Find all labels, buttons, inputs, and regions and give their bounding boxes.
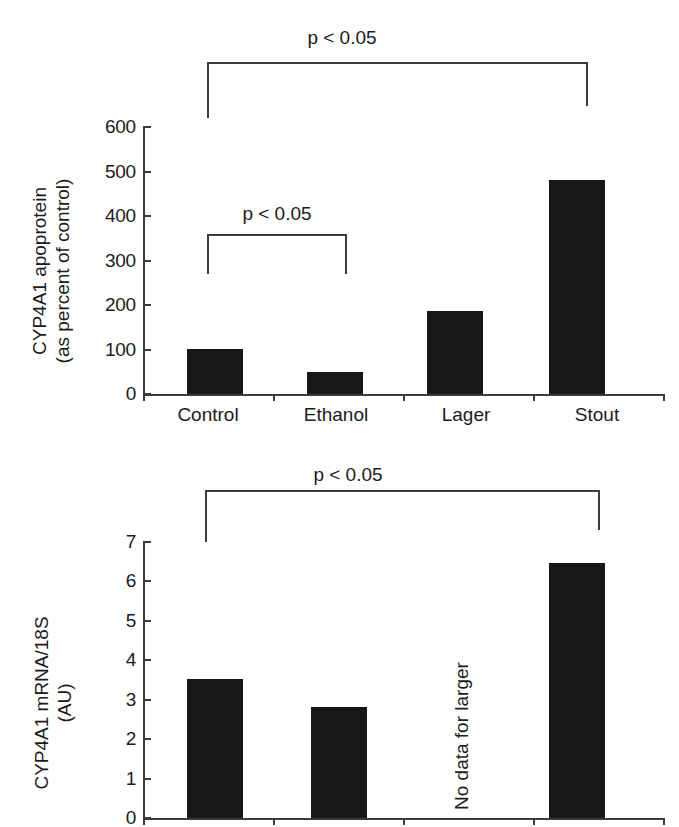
bar-lager bbox=[427, 311, 483, 394]
bracket-right-tick bbox=[345, 234, 347, 274]
p-value-label-outer: p < 0.05 bbox=[288, 465, 408, 485]
panel-cyp4a1-apoprotein: p < 0.05 p < 0.05 CYP4A1 apoprotein(as p… bbox=[0, 0, 679, 440]
x-tick-3 bbox=[533, 818, 535, 825]
x-tick-0 bbox=[143, 394, 145, 401]
y-axis-title-mrna: CYP4A1 mRNA/18S(AU) bbox=[30, 588, 76, 818]
y-tick-5 bbox=[144, 620, 151, 622]
x-tick-0 bbox=[143, 818, 145, 825]
y-tick-label-300: 300 bbox=[76, 251, 136, 270]
y-tick-label-4: 4 bbox=[86, 650, 136, 669]
x-tick-2 bbox=[403, 394, 405, 401]
bar-control bbox=[187, 349, 243, 394]
y-axis-title-line1: CYP4A1 mRNA/18S bbox=[31, 616, 52, 789]
x-category-label-lager: Lager bbox=[406, 405, 526, 425]
y-tick-500 bbox=[144, 171, 151, 173]
y-tick-label-3: 3 bbox=[86, 690, 136, 709]
y-tick-300 bbox=[144, 260, 151, 262]
y-tick-100 bbox=[144, 349, 151, 351]
bracket-left-tick bbox=[207, 62, 209, 118]
y-tick-label-6: 6 bbox=[86, 571, 136, 590]
no-data-note-lager: No data for larger bbox=[452, 662, 472, 810]
bar-ethanol bbox=[307, 372, 363, 394]
x-tick-3 bbox=[533, 394, 535, 401]
y-tick-label-0: 0 bbox=[76, 384, 136, 403]
y-tick-600 bbox=[144, 126, 151, 128]
y-tick-label-500: 500 bbox=[76, 162, 136, 181]
figure-two-panel-bar-charts: p < 0.05 p < 0.05 CYP4A1 apoprotein(as p… bbox=[0, 0, 679, 827]
x-tick-2 bbox=[403, 818, 405, 825]
y-tick-1 bbox=[144, 778, 151, 780]
significance-bracket-control-stout bbox=[205, 490, 600, 542]
p-value-label-inner: p < 0.05 bbox=[217, 204, 337, 224]
y-tick-6 bbox=[144, 580, 151, 582]
significance-bracket-control-stout bbox=[207, 62, 588, 118]
y-tick-2 bbox=[144, 738, 151, 740]
bracket-right-tick bbox=[598, 490, 600, 530]
bar-control bbox=[187, 679, 243, 818]
x-category-label-control: Control bbox=[148, 405, 268, 425]
y-axis-title-line2: (AU) bbox=[54, 683, 75, 722]
y-tick-label-200: 200 bbox=[76, 295, 136, 314]
y-tick-label-0: 0 bbox=[86, 808, 136, 827]
bracket-left-tick bbox=[205, 490, 207, 542]
x-tick-1 bbox=[273, 394, 275, 401]
y-tick-label-5: 5 bbox=[86, 611, 136, 630]
y-tick-3 bbox=[144, 699, 151, 701]
bar-stout bbox=[549, 180, 605, 394]
y-axis-title-line1: CYP4A1 apoprotein bbox=[29, 187, 50, 355]
x-category-label-stout: Stout bbox=[537, 405, 657, 425]
x-tick-4 bbox=[663, 394, 665, 401]
y-tick-label-7: 7 bbox=[86, 532, 136, 551]
bracket-top-rule bbox=[205, 490, 600, 492]
y-tick-label-2: 2 bbox=[86, 729, 136, 748]
y-tick-400 bbox=[144, 215, 151, 217]
bracket-right-tick bbox=[586, 62, 588, 106]
y-tick-7 bbox=[144, 541, 151, 543]
panel-cyp4a1-mrna: p < 0.05 CYP4A1 mRNA/18S(AU) 7 6 5 4 3 2… bbox=[0, 440, 679, 827]
y-tick-4 bbox=[144, 659, 151, 661]
y-tick-label-400: 400 bbox=[76, 206, 136, 225]
x-category-label-ethanol: Ethanol bbox=[276, 405, 396, 425]
bracket-left-tick bbox=[207, 234, 209, 274]
y-axis-title-apoprotein: CYP4A1 apoprotein(as percent of control) bbox=[28, 156, 74, 386]
y-axis-title-line2: (as percent of control) bbox=[52, 179, 73, 364]
bar-ethanol bbox=[311, 707, 367, 818]
y-tick-label-1: 1 bbox=[86, 769, 136, 788]
y-tick-200 bbox=[144, 304, 151, 306]
bracket-top-rule bbox=[207, 234, 347, 236]
p-value-label-outer: p < 0.05 bbox=[282, 28, 402, 48]
significance-bracket-control-ethanol bbox=[207, 234, 347, 274]
y-tick-label-600: 600 bbox=[76, 117, 136, 136]
bar-stout bbox=[549, 563, 605, 818]
bracket-top-rule bbox=[207, 62, 588, 64]
x-tick-4 bbox=[663, 818, 665, 825]
y-tick-label-100: 100 bbox=[76, 340, 136, 359]
x-tick-1 bbox=[273, 818, 275, 825]
